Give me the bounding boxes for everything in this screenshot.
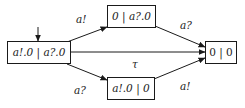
edge-label-s2-s3: a! — [180, 80, 190, 92]
edge-label-s0-s2: a? — [74, 84, 86, 96]
state-label-s3: 0 | 0 — [209, 46, 233, 60]
lts-diagram: a! a? τ a? a! a!.0 | a?.0 0 | a?.0 a!.0 … — [0, 0, 245, 108]
state-label-s1: 0 | a?.0 — [112, 10, 151, 24]
state-label-s2: a!.0 | 0 — [112, 82, 150, 96]
state-s2: a!.0 | 0 — [108, 78, 155, 100]
edge-label-s1-s3: a? — [180, 19, 192, 31]
edge-label-s0-s1: a! — [76, 13, 86, 25]
state-label-s0: a!.0 | a?.0 — [13, 46, 66, 60]
state-s1: 0 | a?.0 — [108, 6, 156, 28]
edge-label-s0-s3: τ — [132, 58, 138, 70]
edge-s0-s1 — [67, 27, 107, 42]
edge-s0-s2 — [67, 64, 107, 80]
edge-s2-s3 — [154, 58, 205, 79]
state-s0: a!.0 | a?.0 — [8, 42, 71, 64]
state-s3: 0 | 0 — [206, 42, 237, 64]
